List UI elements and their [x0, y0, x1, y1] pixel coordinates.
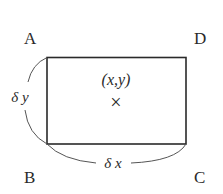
corner-label-b: B: [24, 168, 35, 187]
corner-label-d: D: [194, 29, 206, 48]
rectangle-diagram: A D B C (x,y) × δ y δ x: [0, 0, 223, 194]
center-point-label: (x,y): [102, 71, 131, 89]
corner-label-c: C: [194, 168, 205, 187]
corner-label-a: A: [24, 29, 37, 48]
height-arc-lower: [25, 110, 47, 144]
height-label: δ y: [11, 89, 29, 105]
width-arc-left: [47, 144, 96, 163]
width-label: δ x: [104, 155, 122, 171]
center-point-marker: ×: [110, 91, 121, 113]
height-arc-upper: [28, 58, 47, 83]
width-arc-right: [131, 144, 186, 163]
